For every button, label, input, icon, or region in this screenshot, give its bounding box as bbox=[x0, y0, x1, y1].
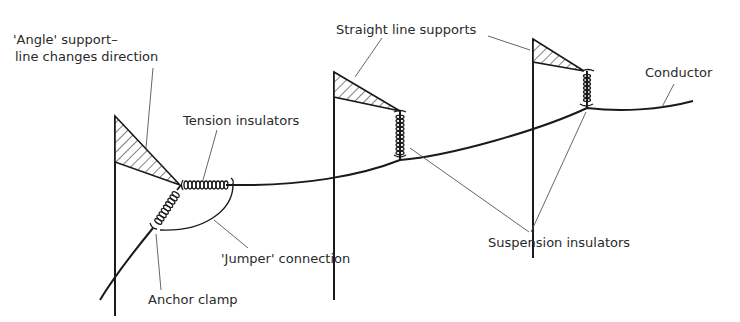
leader-conductor bbox=[662, 84, 674, 107]
straight-support-1-crossarm bbox=[334, 72, 400, 111]
label-anchor-clamp: Anchor clamp bbox=[148, 292, 238, 307]
label-jumper-connection: 'Jumper' connection bbox=[221, 251, 350, 266]
label-conductor: Conductor bbox=[645, 65, 713, 80]
label-straight-line-supports: Straight line supports bbox=[336, 22, 476, 37]
straight-support-2-crossarm bbox=[533, 39, 584, 71]
label-angle-support-desc: line changes direction bbox=[15, 49, 158, 64]
leader-suspension-1 bbox=[410, 148, 529, 232]
leader-anchor-clamp bbox=[156, 234, 161, 290]
label-angle-support: 'Angle' support– bbox=[13, 32, 118, 47]
leader-tension-insulators bbox=[203, 130, 217, 180]
anchor-clamp bbox=[150, 223, 157, 229]
overhead-line-diagram: 'Angle' support– line changes direction … bbox=[0, 0, 740, 322]
leader-jumper bbox=[214, 220, 248, 248]
angle-support bbox=[115, 116, 180, 316]
leader-straight-support-1 bbox=[355, 38, 382, 77]
conductor bbox=[237, 101, 693, 185]
label-suspension-insulators: Suspension insulators bbox=[488, 235, 630, 250]
straight-support-2 bbox=[533, 39, 584, 258]
leader-suspension-2 bbox=[531, 112, 586, 232]
jumper-connection bbox=[160, 186, 233, 230]
label-tension-insulators: Tension insulators bbox=[182, 113, 300, 128]
suspension-insulator-1 bbox=[394, 111, 406, 161]
anchor-insulator-string bbox=[150, 185, 181, 229]
tension-insulator-string bbox=[182, 178, 238, 190]
tension-insulator-discs bbox=[184, 181, 228, 189]
leader-angle-support bbox=[146, 68, 153, 148]
leader-straight-support-2 bbox=[488, 36, 530, 50]
conductor-incoming bbox=[100, 228, 153, 300]
suspension-insulator-2 bbox=[580, 70, 594, 109]
